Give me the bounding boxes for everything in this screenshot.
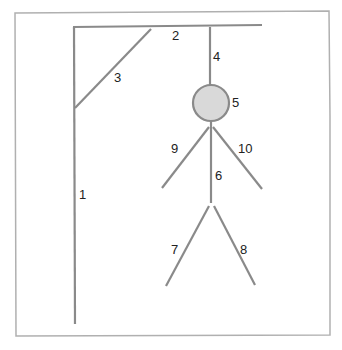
label-left-leg: 7 (171, 242, 178, 257)
label-right-leg: 8 (240, 242, 247, 257)
pole-stroke (74, 27, 75, 324)
label-rope: 4 (213, 49, 220, 64)
label-beam: 2 (172, 28, 179, 43)
label-left-arm: 9 (171, 141, 178, 156)
label-pole: 1 (79, 187, 86, 202)
hangman-diagram: 1 2 3 4 5 6 9 10 7 8 (0, 0, 342, 350)
brace-stroke (75, 29, 151, 108)
label-right-arm: 10 (238, 141, 252, 156)
head-circle (193, 85, 229, 121)
label-brace: 3 (114, 70, 121, 85)
label-head: 5 (232, 95, 239, 110)
right-leg-stroke (214, 206, 255, 285)
label-body: 6 (215, 168, 222, 183)
beam-stroke (73, 25, 262, 27)
left-arm-stroke (162, 127, 209, 188)
